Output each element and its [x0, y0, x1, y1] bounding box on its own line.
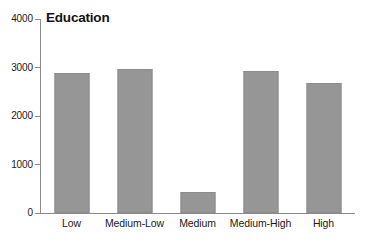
bar — [54, 73, 89, 213]
x-axis-label: Low — [40, 216, 103, 230]
bar-slot — [166, 19, 229, 213]
bar-chart: Education 01000200030004000 LowMedium-Lo… — [0, 0, 371, 247]
y-axis-tick-label: 1000 — [11, 158, 33, 171]
y-axis-tick-label: 3000 — [11, 61, 33, 74]
bar — [243, 71, 278, 213]
y-axis-tick-label: 0 — [28, 206, 33, 219]
bar-slot — [229, 19, 292, 213]
x-axis-label: High — [292, 216, 355, 230]
y-axis-tick-label: 2000 — [11, 109, 33, 122]
x-axis-line — [40, 213, 355, 214]
bar-slot — [292, 19, 355, 213]
bar — [180, 192, 215, 213]
bar-slot — [40, 19, 103, 213]
bars-layer — [40, 19, 355, 213]
x-axis-label: Medium-High — [229, 216, 292, 230]
x-axis-labels: LowMedium-LowMediumMedium-HighHigh — [40, 216, 355, 236]
bar — [117, 69, 152, 213]
x-axis-label: Medium-Low — [103, 216, 166, 230]
x-axis-label: Medium — [166, 216, 229, 230]
y-axis-tick-label: 4000 — [11, 12, 33, 25]
bar — [306, 83, 341, 213]
bar-slot — [103, 19, 166, 213]
